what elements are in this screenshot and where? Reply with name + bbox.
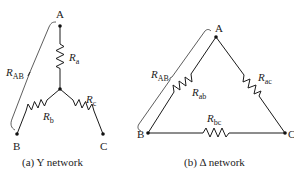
delta-node-b-dot: [146, 131, 150, 135]
delta-network: A B C Rab Rac Rbc RAB (b) Δ network: [137, 22, 294, 169]
center-node-dot: [58, 87, 62, 91]
resistor-rbc-wire: [148, 128, 285, 137]
caption-delta-network: (b) Δ network: [184, 156, 245, 169]
resistor-rab-wire: [148, 37, 216, 133]
y-network: A B C Ra Rb Rc RAB (a) Y network: [5, 8, 107, 169]
resistor-rac-wire: [216, 37, 285, 133]
node-a-dot: [58, 24, 62, 28]
rab-resistor-label: Rab: [191, 86, 206, 101]
delta-node-c-label: C: [288, 128, 294, 140]
resistor-rb-wire: [17, 89, 60, 134]
rbc-resistor-label: Rbc: [206, 112, 222, 127]
delta-node-c-dot: [283, 131, 287, 135]
ra-label: Ra: [68, 51, 80, 66]
rb-label: Rb: [42, 110, 54, 125]
resistor-ra-wire: [56, 26, 64, 89]
delta-node-b-label: B: [137, 128, 144, 140]
delta-rab-brace: [138, 30, 211, 132]
node-b-label: B: [13, 140, 20, 152]
node-a-label: A: [56, 8, 64, 20]
caption-y-network: (a) Y network: [22, 156, 83, 169]
resistor-rc-wire: [60, 89, 103, 134]
rab-label-delta: RAB: [150, 68, 169, 83]
circuit-diagram: A B C Ra Rb Rc RAB (a) Y network A B C R…: [0, 0, 294, 175]
node-c-label: C: [100, 140, 107, 152]
rac-resistor-label: Rac: [257, 71, 272, 86]
node-c-dot: [101, 132, 105, 136]
rab-label-y: RAB: [5, 66, 24, 81]
delta-node-a-dot: [214, 35, 218, 39]
node-b-dot: [15, 132, 19, 136]
delta-node-a-label: A: [215, 22, 223, 34]
